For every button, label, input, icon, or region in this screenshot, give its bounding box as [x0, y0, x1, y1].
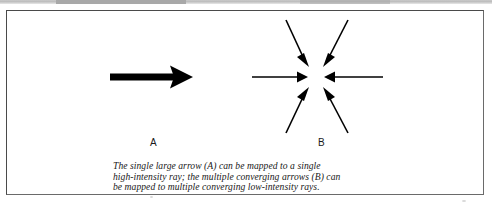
figure-frame-border: A B The single large arrow (A) can be ma… — [6, 10, 484, 195]
converging-arrow-left — [252, 72, 308, 83]
figure-caption: The single large arrow (A) can be mapped… — [113, 161, 373, 193]
large-right-arrow — [110, 66, 193, 89]
group-label-b: B — [318, 138, 325, 148]
converging-arrow-right — [324, 72, 383, 83]
figure-content-area: A B The single large arrow (A) can be ma… — [7, 11, 485, 196]
converging-arrow-upper-left — [286, 20, 309, 67]
group-label-a: A — [150, 138, 157, 148]
caption-line-1: The single large arrow (A) can be mapped… — [113, 161, 373, 172]
caption-line-3: be mapped to multiple converging low-int… — [113, 182, 373, 193]
scan-speckle — [462, 200, 466, 202]
converging-arrow-lower-left — [286, 87, 309, 133]
scan-artifact-band — [0, 0, 492, 4]
converging-arrow-upper-right — [323, 20, 348, 67]
scan-speckle — [150, 196, 153, 198]
converging-arrow-lower-right — [323, 87, 348, 133]
figure-page: A B The single large arrow (A) can be ma… — [0, 0, 492, 205]
